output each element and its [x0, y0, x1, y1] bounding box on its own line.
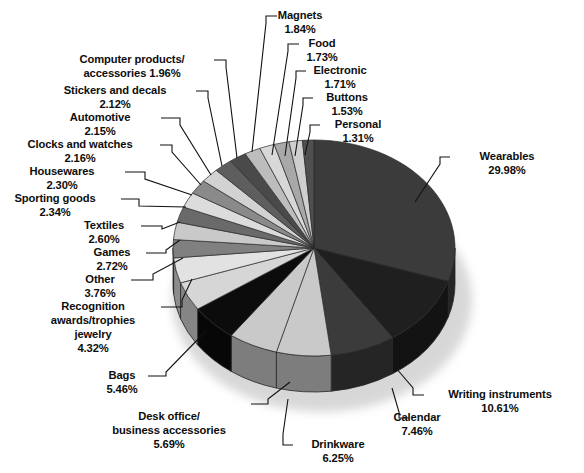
- callout-label-magnets: Magnets1.84%: [278, 9, 323, 35]
- callout-label-line: Sporting goods: [14, 192, 95, 204]
- callout-label-line: 7.46%: [401, 425, 432, 437]
- callout-label-line: Stickers and decals: [64, 84, 167, 96]
- callout-label-sporting: Sporting goods2.34%: [14, 192, 95, 218]
- callout-label-drinkware: Drinkware6.25%: [311, 438, 364, 464]
- callout-label-line: Clocks and watches: [27, 138, 132, 150]
- leader-line-stickers: [196, 91, 222, 166]
- callout-label-line: Automotive: [70, 111, 131, 123]
- callout-label-line: 4.32%: [77, 342, 108, 354]
- pie-chart-svg: Wearables 29.98%Writing instruments 10.6…: [0, 0, 584, 473]
- callout-label-line: 10.61%: [481, 402, 518, 414]
- callout-label-line: Housewares: [30, 165, 95, 177]
- callout-label-buttons: Buttons1.53%: [326, 91, 368, 117]
- pie-slices: Wearables 29.98%Writing instruments 10.6…: [173, 140, 455, 356]
- callout-label-line: Wearables: [480, 150, 535, 162]
- callout-label-line: Buttons: [326, 91, 368, 103]
- callout-label-line: 1.71%: [324, 78, 355, 90]
- leader-line-food: [272, 44, 299, 155]
- callout-label-line: Computer products/: [79, 53, 184, 65]
- callout-label-stickers: Stickers and decals2.12%: [64, 84, 167, 110]
- callout-label-games: Games2.72%: [94, 246, 131, 272]
- callout-label-line: 2.15%: [84, 125, 115, 137]
- leader-line-sporting: [121, 199, 186, 207]
- callout-label-automotive: Automotive2.15%: [70, 111, 131, 137]
- callout-label-line: 2.34%: [39, 206, 70, 218]
- callout-label-line: accessories 1.96%: [83, 67, 180, 79]
- callout-label-personal: Personal1.31%: [335, 118, 381, 144]
- callout-label-line: Recognition: [61, 300, 125, 312]
- callout-label-line: jewelry: [73, 328, 112, 340]
- callout-label-computer: Computer products/accessories 1.96%: [79, 53, 184, 79]
- callout-label-housewares: Housewares2.30%: [30, 165, 95, 191]
- leader-line-housewares: [125, 172, 192, 195]
- callout-label-line: 1.31%: [342, 132, 373, 144]
- callout-label-line: Magnets: [278, 9, 323, 21]
- callout-label-line: Desk office/: [138, 410, 200, 422]
- pie-chart-figure: Wearables 29.98%Writing instruments 10.6…: [0, 0, 584, 473]
- callout-label-line: 5.69%: [153, 438, 184, 450]
- callout-label-bags: Bags5.46%: [106, 369, 137, 395]
- callout-label-line: Writing instruments: [448, 388, 552, 400]
- callout-label-textiles: Textiles2.60%: [84, 219, 124, 245]
- callout-label-line: 1.73%: [306, 51, 337, 63]
- callout-label-line: 2.30%: [46, 179, 77, 191]
- callout-label-line: Bags: [109, 369, 136, 381]
- callout-label-line: 1.84%: [284, 23, 315, 35]
- callout-label-desk: Desk office/business accessories5.69%: [112, 410, 226, 450]
- leader-line-automotive: [161, 118, 211, 175]
- callout-label-electronic: Electronic1.71%: [313, 64, 366, 90]
- callout-label-wearables: Wearables29.98%: [480, 150, 535, 176]
- leader-line-textiles: [141, 222, 180, 229]
- callout-label-line: 3.76%: [84, 287, 115, 299]
- callout-label-line: Electronic: [313, 64, 366, 76]
- callout-label-line: Drinkware: [311, 438, 364, 450]
- callout-label-line: business accessories: [112, 424, 226, 436]
- callout-label-clocks: Clocks and watches2.16%: [27, 138, 132, 164]
- callout-label-writing: Writing instruments10.61%: [448, 388, 552, 414]
- callout-label-line: Games: [94, 246, 131, 258]
- callout-label-line: 6.25%: [322, 452, 353, 464]
- callout-label-food: Food1.73%: [306, 37, 337, 63]
- callout-label-line: 1.53%: [331, 105, 362, 117]
- leader-line-magnets: [252, 16, 277, 152]
- callout-label-calendar: Calendar7.46%: [393, 411, 441, 437]
- callout-label-line: awards/trophies: [51, 314, 135, 326]
- callout-label-line: 29.98%: [488, 164, 525, 176]
- callout-label-line: 2.72%: [96, 260, 127, 272]
- callout-label-line: 2.60%: [88, 233, 119, 245]
- callout-label-line: Calendar: [393, 411, 441, 423]
- callout-label-line: 5.46%: [106, 383, 137, 395]
- callout-label-line: 2.16%: [64, 152, 95, 164]
- leader-line-clocks: [160, 145, 201, 185]
- callout-label-line: Textiles: [84, 219, 124, 231]
- callout-label-recognition: Recognitionawards/trophiesjewelry4.32%: [51, 300, 135, 354]
- callout-label-line: Other: [85, 273, 115, 285]
- callout-label-line: 2.12%: [99, 98, 130, 110]
- callout-label-other: Other3.76%: [84, 273, 115, 299]
- callout-label-line: Food: [309, 37, 336, 49]
- callout-label-line: Personal: [335, 118, 381, 130]
